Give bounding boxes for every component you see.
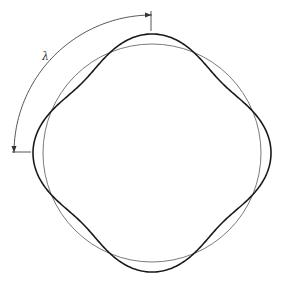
arrowhead-top-icon — [145, 13, 152, 18]
reference-circle — [43, 44, 261, 262]
standing-wave-diagram: λ — [0, 0, 288, 288]
wavelength-label: λ — [41, 50, 49, 63]
wavelength-dimension-arc — [14, 15, 152, 153]
standing-wave-curve — [33, 34, 271, 272]
arrowhead-left-icon — [12, 146, 17, 153]
